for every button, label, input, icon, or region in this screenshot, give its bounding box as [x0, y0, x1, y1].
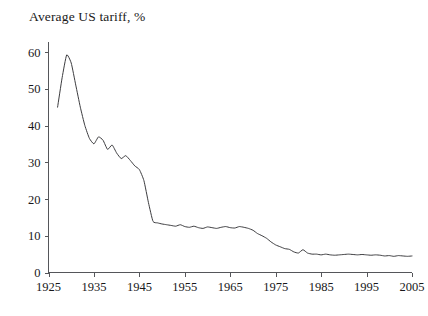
y-axis-tick-label: 10: [28, 229, 41, 243]
x-axis-tick-label: 2005: [400, 280, 425, 294]
x-axis-group: 192519351945195519651975198519952005: [36, 273, 425, 294]
chart-page: Average US tariff, % 0102030405060 19251…: [0, 0, 428, 316]
x-axis-tick-label: 1985: [309, 280, 334, 294]
x-axis-tick-label: 1975: [263, 280, 288, 294]
y-axis-tick-label: 60: [28, 46, 41, 60]
data-series-line: [58, 55, 412, 257]
x-axis-tick-label: 1995: [354, 280, 379, 294]
x-axis-tick-label: 1945: [127, 280, 152, 294]
y-axis-tick-label: 0: [34, 266, 40, 280]
x-axis-tick-label: 1955: [172, 280, 197, 294]
y-axis-tick-label: 50: [28, 82, 41, 96]
y-axis-group: 0102030405060: [28, 46, 49, 281]
chart-plot-area: 0102030405060 19251935194519551965197519…: [0, 0, 428, 316]
y-axis-tick-label: 40: [28, 119, 41, 133]
y-axis-tick-label: 20: [28, 193, 41, 207]
y-axis-tick-label: 30: [28, 156, 41, 170]
x-axis-tick-label: 1965: [218, 280, 243, 294]
x-axis-tick-label: 1925: [36, 280, 61, 294]
x-axis-tick-label: 1935: [81, 280, 106, 294]
